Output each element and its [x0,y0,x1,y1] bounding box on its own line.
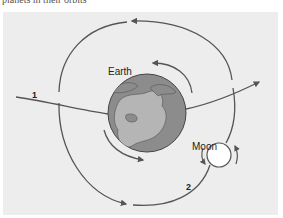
path-1-label: 1 [32,90,37,100]
earth-label: Earth [108,66,132,77]
earth [108,74,186,152]
orbit-diagram: Earth Moon 1 2 [0,0,283,218]
path-2-label: 2 [186,182,191,192]
moon-label: Moon [192,141,217,152]
